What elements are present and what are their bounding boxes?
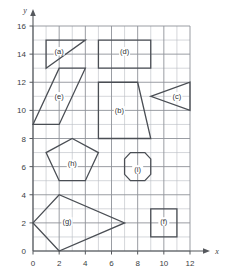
shape-label-g: (g)	[62, 217, 72, 226]
shape-label-h: (h)	[68, 159, 78, 168]
y-tick-label: 6	[22, 163, 27, 172]
y-tick-label: 14	[17, 50, 26, 59]
x-tick-label: 2	[57, 259, 62, 268]
y-tick-label: 10	[17, 106, 26, 115]
y-tick-label: 2	[22, 219, 27, 228]
x-tick-label: 10	[159, 259, 168, 268]
x-tick-label: 0	[31, 259, 36, 268]
y-axis-name: y	[22, 6, 27, 15]
axes	[30, 9, 210, 254]
y-tick-label: 16	[17, 22, 26, 31]
x-tick-label: 8	[135, 259, 140, 268]
shape-label-f: (f)	[160, 217, 168, 226]
shape-label-i: (i)	[134, 165, 141, 174]
shape-label-c: (c)	[173, 92, 182, 101]
x-axis-arrow-icon	[203, 248, 210, 254]
y-tick-label: 8	[22, 135, 27, 144]
y-tick-label: 0	[22, 247, 27, 256]
plot-svg: (a)(b)(c)(d)(e)(f)(g)(h)(i) 024681012024…	[0, 0, 227, 278]
shape-label-a: (a)	[55, 47, 65, 56]
x-tick-label: 12	[186, 259, 195, 268]
shape-labels: (a)(b)(c)(d)(e)(f)(g)(h)(i)	[54, 47, 183, 226]
shape-label-b: (b)	[115, 106, 125, 115]
y-tick-label: 4	[22, 191, 27, 200]
y-tick-label: 12	[17, 78, 26, 87]
shape-label-e: (e)	[55, 92, 65, 101]
y-axis-arrow-icon	[30, 9, 36, 16]
shape-label-d: (d)	[120, 47, 130, 56]
coordinate-grid-figure: (a)(b)(c)(d)(e)(f)(g)(h)(i) 024681012024…	[0, 0, 227, 278]
x-tick-label: 6	[109, 259, 114, 268]
x-axis-name: x	[214, 247, 219, 256]
x-tick-label: 4	[83, 259, 88, 268]
